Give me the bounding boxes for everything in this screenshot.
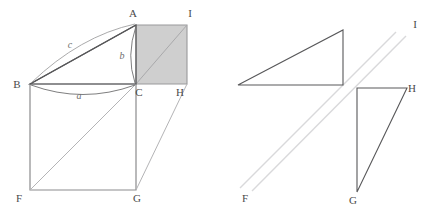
- left-figure-group: c b a A B C F G H I: [13, 7, 192, 204]
- vertex-label-i: I: [188, 7, 192, 19]
- parallel-band-line-lower: [240, 32, 396, 188]
- vertex-label-h: H: [176, 86, 184, 98]
- side-label-c: c: [68, 39, 73, 50]
- diagram-canvas: c b a A B C F G H I F G H I: [0, 0, 440, 217]
- vertex-label-b: B: [13, 78, 20, 90]
- vertex-label-f: F: [16, 192, 22, 204]
- exploded-vertex-label-g: G: [349, 194, 357, 206]
- parallel-band-line-upper: [252, 36, 406, 191]
- exploded-vertex-label-i: I: [413, 18, 417, 30]
- exploded-upper-triangle: [238, 30, 343, 85]
- pythagorean-dissection-figure: c b a A B C F G H I F G H I: [0, 0, 440, 217]
- vertex-label-c: C: [135, 86, 142, 98]
- side-label-b: b: [120, 50, 125, 61]
- diagonal-f-to-c: [30, 84, 136, 190]
- segment-g-to-h: [136, 84, 187, 190]
- right-figure-group: F G H I: [238, 18, 417, 206]
- vertex-label-g: G: [133, 192, 141, 204]
- exploded-vertex-label-h: H: [408, 82, 416, 94]
- vertex-label-a: A: [129, 7, 137, 19]
- exploded-vertex-label-f: F: [242, 192, 248, 204]
- measure-arc-b: [131, 26, 136, 83]
- exploded-lower-triangle: [357, 88, 407, 192]
- side-label-a: a: [77, 90, 82, 101]
- measure-arc-a: [31, 85, 135, 95]
